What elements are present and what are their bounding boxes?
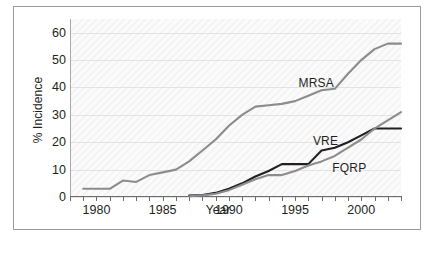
series-line-fqrp (189, 112, 401, 196)
y-tick-label: 10 (32, 163, 66, 177)
x-tick-mark (123, 197, 124, 201)
y-tick-label: 20 (32, 135, 66, 149)
series-label-mrsa: MRSA (299, 76, 334, 90)
series-line-vre (189, 129, 401, 196)
x-tick-mark (229, 197, 230, 201)
y-tick-label: 40 (32, 80, 66, 94)
series-label-fqrp: FQRP (332, 161, 366, 175)
x-tick-mark (202, 197, 203, 201)
x-tick-mark (255, 197, 256, 201)
x-tick-mark (189, 197, 190, 201)
x-tick-mark (348, 197, 349, 201)
x-tick-mark (110, 197, 111, 201)
x-tick-mark (335, 197, 336, 201)
y-tick-label: 0 (32, 190, 66, 204)
x-axis-title: Year (14, 203, 422, 217)
series-label-vre: VRE (313, 134, 338, 148)
y-tick-label: 30 (32, 108, 66, 122)
x-tick-mark (242, 197, 243, 201)
x-tick-mark (70, 197, 71, 201)
x-tick-mark (322, 197, 323, 201)
x-tick-mark (401, 197, 402, 201)
x-tick-mark (149, 197, 150, 201)
x-tick-mark (295, 197, 296, 201)
x-tick-mark (388, 197, 389, 201)
x-tick-mark (163, 197, 164, 201)
x-tick-mark (361, 197, 362, 201)
x-tick-mark (282, 197, 283, 201)
x-tick-mark (176, 197, 177, 201)
chart-figure: % Incidence 0102030405060 19801985199019… (13, 6, 421, 230)
y-tick-label: 60 (32, 26, 66, 40)
x-tick-mark (375, 197, 376, 201)
x-tick-mark (216, 197, 217, 201)
x-tick-mark (269, 197, 270, 201)
y-tick-labels: 0102030405060 (26, 19, 66, 197)
x-tick-mark (96, 197, 97, 201)
x-tick-mark (136, 197, 137, 201)
x-tick-mark (308, 197, 309, 201)
x-tick-mark (83, 197, 84, 201)
x-tick-marks (70, 197, 401, 202)
y-tick-label: 50 (32, 53, 66, 67)
